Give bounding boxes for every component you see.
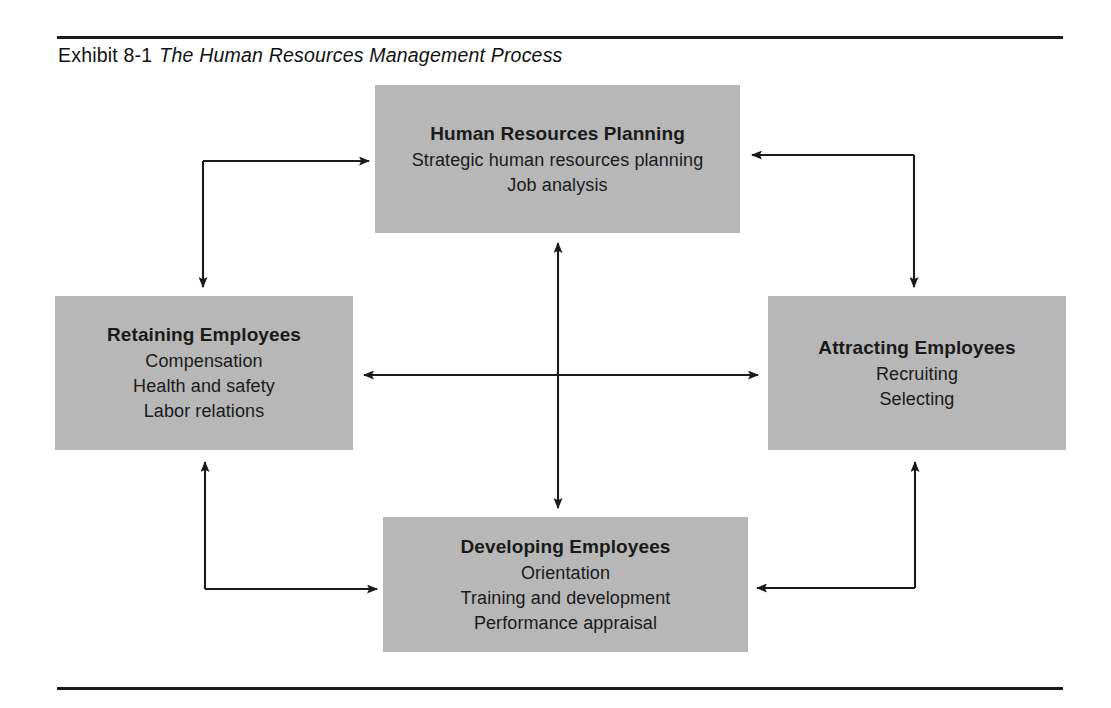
exhibit-figure: Exhibit 8-1The Human Resources Managemen…: [0, 0, 1111, 708]
process-box-attracting: Attracting Employees Recruiting Selectin…: [768, 296, 1066, 450]
bottom-rule: [57, 687, 1063, 690]
box-title-retaining: Retaining Employees: [107, 322, 301, 347]
process-box-retaining: Retaining Employees Compensation Health …: [55, 296, 353, 450]
box-line-developing-3: Performance appraisal: [474, 611, 657, 636]
box-line-planning-2: Job analysis: [507, 173, 607, 198]
exhibit-caption: Exhibit 8-1The Human Resources Managemen…: [58, 42, 563, 68]
exhibit-title: The Human Resources Management Process: [159, 44, 562, 66]
top-rule: [57, 36, 1063, 39]
box-line-developing-2: Training and development: [461, 586, 671, 611]
box-line-planning-1: Strategic human resources planning: [412, 148, 704, 173]
box-line-retaining-2: Health and safety: [133, 374, 275, 399]
box-line-attracting-2: Selecting: [880, 387, 955, 412]
box-line-developing-1: Orientation: [521, 561, 610, 586]
box-line-retaining-3: Labor relations: [144, 399, 265, 424]
process-box-planning: Human Resources Planning Strategic human…: [375, 85, 740, 233]
box-line-attracting-1: Recruiting: [876, 362, 958, 387]
box-line-retaining-1: Compensation: [145, 349, 262, 374]
box-title-attracting: Attracting Employees: [818, 335, 1015, 360]
exhibit-label: Exhibit 8-1: [58, 44, 152, 66]
process-box-developing: Developing Employees Orientation Trainin…: [383, 517, 748, 652]
box-title-planning: Human Resources Planning: [430, 121, 685, 146]
box-title-developing: Developing Employees: [460, 534, 670, 559]
